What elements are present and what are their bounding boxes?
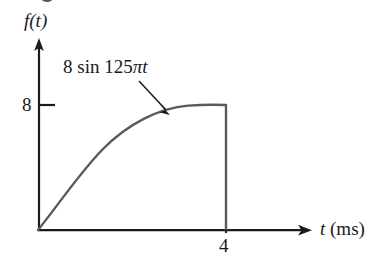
sine-curve <box>38 105 226 230</box>
y-tick-label-8: 8 <box>22 95 32 114</box>
waveform-figure: f(t) 8 4 t (ms) 8 sin 125πt <box>0 0 388 263</box>
equation-coefficient: 8 <box>63 56 73 77</box>
equation-pi-symbol: π <box>133 56 143 77</box>
x-axis-label: t (ms) <box>320 219 365 238</box>
equation-function: sin <box>77 56 99 77</box>
curve-equation-label: 8 sin 125πt <box>63 57 148 76</box>
equation-argument-variable: t <box>142 56 147 77</box>
equation-argument-number: 125 <box>104 56 133 77</box>
annotation-arrow-line <box>139 81 166 110</box>
x-tick-label-4: 4 <box>219 236 229 255</box>
y-axis-label: f(t) <box>24 11 47 30</box>
x-axis-unit: (ms) <box>330 218 365 239</box>
